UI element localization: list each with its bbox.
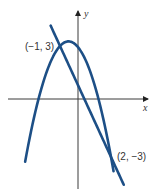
point-label-2-neg3: (2, −3) bbox=[117, 151, 146, 162]
y-axis-label: y bbox=[83, 8, 89, 19]
x-axis-label: x bbox=[142, 102, 148, 113]
graph-figure: x y (−1, 3) (2, −3) bbox=[0, 0, 158, 194]
line-curve bbox=[51, 26, 124, 185]
parabola-curve bbox=[25, 41, 113, 171]
point-label-neg1-3: (−1, 3) bbox=[25, 41, 54, 52]
